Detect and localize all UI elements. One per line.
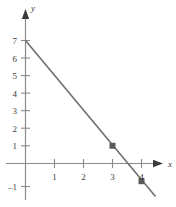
graph-canvas: 1 2 3 4 7 6 5 4 3 2 1 –1 y x bbox=[0, 0, 176, 207]
x-tick-label-3: 3 bbox=[110, 172, 115, 182]
y-tick-label-3: 3 bbox=[13, 106, 18, 116]
x-tick-label-2: 2 bbox=[81, 172, 86, 182]
y-tick-label-2: 2 bbox=[13, 124, 18, 134]
y-tick-label-7: 7 bbox=[13, 36, 18, 46]
x-axis-arrowhead bbox=[153, 160, 163, 167]
y-tick-label-4: 4 bbox=[13, 89, 18, 99]
y-tick-label-5: 5 bbox=[13, 71, 18, 81]
y-tick-label-minus-1: –1 bbox=[7, 182, 17, 192]
linear-function-graph: 1 2 3 4 7 6 5 4 3 2 1 –1 y x bbox=[0, 0, 176, 207]
y-axis-label: y bbox=[30, 3, 35, 13]
y-axis-arrowhead bbox=[22, 9, 29, 19]
data-point-marker-3-1 bbox=[110, 143, 116, 149]
y-tick-label-6: 6 bbox=[13, 54, 18, 64]
x-axis-label: x bbox=[167, 159, 172, 169]
x-tick-label-1: 1 bbox=[52, 172, 57, 182]
function-line bbox=[26, 41, 156, 197]
y-tick-label-1: 1 bbox=[13, 141, 18, 151]
x-tick-label-4: 4 bbox=[139, 172, 144, 182]
